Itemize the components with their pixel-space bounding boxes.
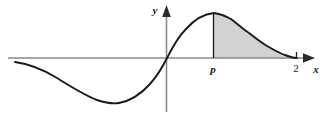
graph-canvas: y x p 2 bbox=[0, 0, 326, 114]
x-axis-label: x bbox=[312, 63, 319, 75]
x-axis-arrow-icon bbox=[303, 53, 315, 63]
y-axis-label: y bbox=[151, 4, 158, 16]
y-axis-arrow-icon bbox=[162, 5, 171, 17]
figure-container: y x p 2 bbox=[0, 0, 326, 114]
shaded-area-region bbox=[214, 13, 297, 58]
x-tick-label-2: 2 bbox=[293, 62, 299, 74]
x-tick-label-p: p bbox=[209, 63, 216, 75]
